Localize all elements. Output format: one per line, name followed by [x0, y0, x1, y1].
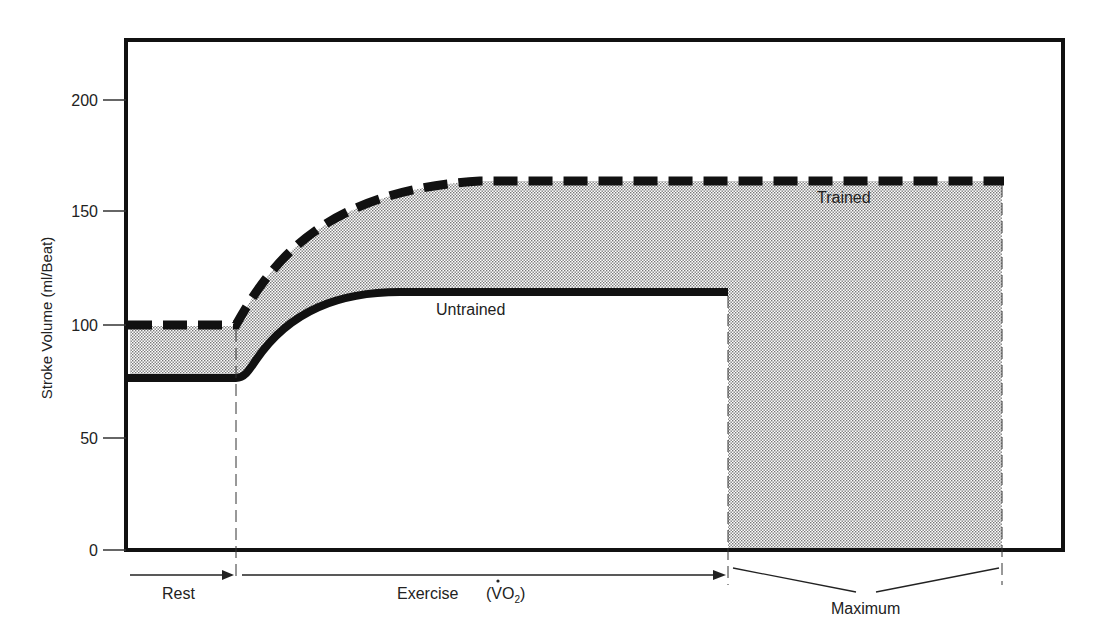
y-tick-200: 200	[71, 92, 98, 109]
trained-label: Trained	[817, 189, 871, 206]
vo2-label: (VO2)	[486, 585, 525, 605]
rest-arrow-icon	[222, 570, 234, 580]
y-axis-label: Stroke Volume (ml/Beat)	[38, 237, 55, 400]
stroke-volume-chart: 200 150 100 50 0 Stroke Volume (ml/Beat)…	[0, 0, 1107, 642]
rest-label: Rest	[162, 585, 195, 602]
maximum-bracket	[733, 568, 856, 592]
shaded-difference-area	[130, 181, 1002, 548]
y-axis-ticks	[103, 100, 126, 550]
y-tick-0: 0	[89, 542, 98, 559]
y-tick-150: 150	[71, 203, 98, 220]
y-tick-100: 100	[71, 317, 98, 334]
y-tick-50: 50	[80, 430, 98, 447]
exercise-arrow-icon	[713, 570, 726, 580]
exercise-label: Exercise	[397, 585, 458, 602]
untrained-label: Untrained	[436, 301, 505, 318]
maximum-label: Maximum	[831, 600, 900, 617]
